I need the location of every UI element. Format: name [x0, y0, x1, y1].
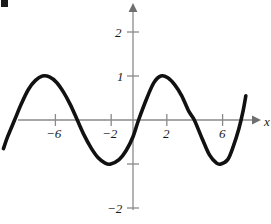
- x-tick-label-6: 6: [219, 127, 226, 140]
- x-tick-label-2: 2: [163, 127, 170, 140]
- x-axis-label: x: [264, 115, 270, 128]
- y-axis-arrow-icon: [129, 3, 138, 12]
- x-axis-arrow-icon: [252, 116, 261, 125]
- y-tick-label-2: 2: [115, 26, 122, 39]
- y-tick-label-1: 1: [117, 70, 124, 83]
- x-tick-label--2: −2: [102, 127, 117, 140]
- graph-plot: [0, 0, 271, 224]
- x-tick-label--6: −6: [46, 127, 61, 140]
- y-tick-label--2: −2: [107, 202, 122, 215]
- figure-container: −6 −2 2 6 2 1 −2 x: [0, 0, 271, 224]
